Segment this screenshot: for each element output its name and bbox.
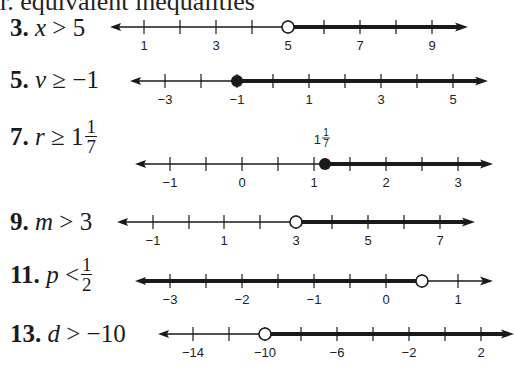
tick-label: 3: [292, 233, 299, 248]
tick-label: −1: [307, 292, 322, 307]
tick-label: 1: [454, 292, 461, 307]
tick-label: 1: [220, 233, 227, 248]
number-line-7: −10123117: [135, 127, 493, 190]
tick-label: −1: [230, 92, 245, 107]
tick-label: −1: [146, 233, 161, 248]
tick-label: 7: [356, 38, 363, 53]
open-circle-icon: [282, 21, 294, 33]
open-circle-icon: [290, 216, 302, 228]
tick-label: −3: [158, 92, 173, 107]
tick-label: 5: [449, 92, 456, 107]
tick-label: 1: [140, 38, 147, 53]
tick-label: −1: [163, 175, 178, 190]
number-line-11: −3−2−101: [135, 274, 493, 307]
tick-label: 2: [477, 345, 484, 360]
tick-label: 5: [364, 233, 371, 248]
point-label-numerator: 1: [323, 127, 329, 138]
number-line-9: −11357: [117, 215, 475, 248]
tick-label: 9: [428, 38, 435, 53]
tick-label: −10: [254, 345, 276, 360]
point-label-whole: 1: [314, 132, 321, 147]
number-line-5: −3−1135: [130, 74, 488, 107]
tick-label: 0: [238, 175, 245, 190]
tick-label: −3: [163, 292, 178, 307]
tick-label: 5: [284, 38, 291, 53]
closed-circle-icon: [319, 158, 331, 170]
tick-label: 1: [310, 175, 317, 190]
tick-label: 7: [436, 233, 443, 248]
tick-label: −6: [330, 345, 345, 360]
tick-label: 0: [382, 292, 389, 307]
tick-label: 3: [212, 38, 219, 53]
tick-label: 3: [377, 92, 384, 107]
open-circle-icon: [416, 275, 428, 287]
point-label-denominator: 7: [323, 138, 329, 149]
tick-label: −2: [235, 292, 250, 307]
tick-label: −2: [402, 345, 417, 360]
tick-label: 3: [454, 175, 461, 190]
closed-circle-icon: [231, 75, 243, 87]
number-line-3: 13579: [110, 20, 468, 53]
tick-label: 1: [305, 92, 312, 107]
number-lines: 13579−3−1135−10123117−11357−3−2−101−14−1…: [0, 0, 515, 367]
open-circle-icon: [259, 328, 271, 340]
tick-label: −14: [182, 345, 204, 360]
number-line-13: −14−10−6−22: [158, 327, 514, 360]
tick-label: 2: [382, 175, 389, 190]
